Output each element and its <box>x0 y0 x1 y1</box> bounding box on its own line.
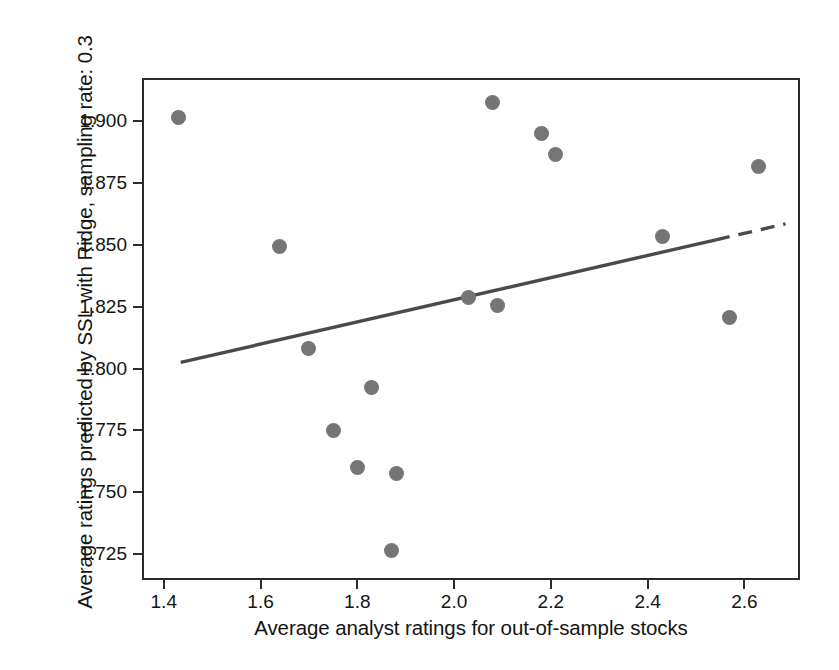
y-axis-tick <box>133 553 142 555</box>
y-axis-tick <box>133 368 142 370</box>
x-axis-tick <box>163 580 165 589</box>
scatter-plot-figure: Average ratings predicted by SSL with Ri… <box>0 0 839 670</box>
y-axis-tick-label: 1.725 <box>79 544 127 563</box>
y-axis-tick-label: 1.900 <box>79 111 127 130</box>
y-axis-tick <box>133 120 142 122</box>
x-axis-tick-label: 1.4 <box>124 592 204 611</box>
y-axis-tick-label: 1.800 <box>79 359 127 378</box>
x-axis-tick-label: 1.8 <box>317 592 397 611</box>
x-axis-tick-label: 2.6 <box>704 592 784 611</box>
y-axis-tick <box>133 429 142 431</box>
y-axis-tick-label: 1.875 <box>79 173 127 192</box>
y-axis-tick <box>133 306 142 308</box>
x-axis-label: Average analyst ratings for out-of-sampl… <box>142 616 800 640</box>
y-axis-tick <box>133 491 142 493</box>
y-axis-tick <box>133 182 142 184</box>
x-axis-tick-label: 2.2 <box>511 592 591 611</box>
x-axis-tick-label: 2.4 <box>608 592 688 611</box>
x-axis-tick-label: 1.6 <box>221 592 301 611</box>
plot-area-frame <box>142 78 800 580</box>
x-axis-tick-label: 2.0 <box>414 592 494 611</box>
x-axis-tick <box>743 580 745 589</box>
x-axis-tick <box>260 580 262 589</box>
y-axis-tick-label: 1.850 <box>79 235 127 254</box>
y-axis-tick-label: 1.775 <box>79 420 127 439</box>
y-axis-tick-label: 1.750 <box>79 482 127 501</box>
y-axis-tick-label: 1.825 <box>79 297 127 316</box>
x-axis-tick <box>550 580 552 589</box>
x-axis-tick <box>647 580 649 589</box>
y-axis-tick <box>133 244 142 246</box>
x-axis-tick <box>356 580 358 589</box>
x-axis-tick <box>453 580 455 589</box>
